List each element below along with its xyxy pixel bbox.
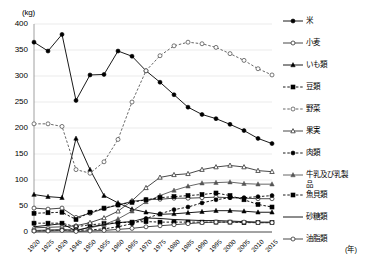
series-point-5-13 bbox=[214, 165, 218, 169]
series-point-4-1 bbox=[46, 122, 50, 126]
series-point-5-3 bbox=[74, 223, 78, 227]
legend-item-0[interactable]: 米 bbox=[282, 16, 313, 26]
series-point-8-6 bbox=[116, 203, 120, 207]
series-point-0-15 bbox=[242, 129, 246, 133]
legend-item-8[interactable]: 魚貝類 bbox=[282, 190, 327, 200]
series-point-8-0 bbox=[32, 211, 36, 215]
series-point-0-1 bbox=[46, 49, 50, 53]
series-point-6-10 bbox=[172, 208, 176, 212]
legend-label: 魚貝類 bbox=[306, 190, 327, 199]
legend-label: 小麦 bbox=[306, 38, 320, 47]
series-point-4-0 bbox=[32, 122, 36, 126]
series-line-4 bbox=[34, 42, 272, 173]
series-point-10-15 bbox=[242, 220, 246, 224]
series-point-0-6 bbox=[116, 49, 120, 53]
series-point-0-11 bbox=[186, 105, 190, 109]
series-point-0-17 bbox=[270, 142, 274, 146]
series-point-4-11 bbox=[186, 40, 190, 44]
series-point-0-9 bbox=[158, 80, 162, 84]
legend-item-5[interactable]: 果実 bbox=[282, 126, 320, 136]
series-point-4-8 bbox=[144, 69, 148, 73]
series-point-4-16 bbox=[256, 67, 260, 71]
legend-item-2[interactable]: いも類 bbox=[282, 60, 327, 70]
series-point-0-5 bbox=[102, 72, 106, 76]
legend-label: 牛乳及び乳製 bbox=[306, 170, 348, 179]
legend-item-6[interactable]: 肉類 bbox=[282, 148, 320, 158]
series-point-6-16 bbox=[256, 195, 260, 199]
series-point-10-5 bbox=[102, 228, 106, 232]
series-point-10-1 bbox=[46, 229, 50, 233]
series-point-10-8 bbox=[144, 225, 148, 229]
series-point-0-0 bbox=[32, 40, 36, 44]
series-point-5-10 bbox=[172, 172, 176, 176]
series-point-4-14 bbox=[228, 52, 232, 56]
series-point-8-13 bbox=[214, 191, 218, 195]
series-point-6-9 bbox=[158, 212, 162, 216]
series-line-9 bbox=[34, 218, 272, 231]
series-point-5-17 bbox=[270, 169, 274, 173]
series-line-0 bbox=[34, 34, 272, 143]
legend-label: 野菜 bbox=[306, 104, 320, 113]
series-point-4-7 bbox=[130, 100, 134, 104]
series-point-5-12 bbox=[200, 167, 204, 171]
series-point-1-2 bbox=[60, 206, 64, 210]
series-point-5-16 bbox=[256, 168, 260, 172]
series-point-0-4 bbox=[88, 73, 92, 77]
series-point-7-6 bbox=[116, 217, 120, 221]
legend-marker-icon bbox=[282, 38, 304, 48]
legend-item-10[interactable]: 油脂類 bbox=[282, 234, 327, 244]
series-point-4-5 bbox=[102, 160, 106, 164]
series-point-6-7 bbox=[130, 222, 134, 226]
series-point-2-3 bbox=[74, 136, 78, 140]
legend-marker-icon bbox=[282, 60, 304, 70]
legend-label: 砂糖類 bbox=[306, 212, 327, 221]
series-point-10-14 bbox=[228, 220, 232, 224]
series-point-10-16 bbox=[256, 221, 260, 225]
series-point-4-6 bbox=[116, 137, 120, 141]
series-point-4-2 bbox=[60, 124, 64, 128]
series-point-3-0 bbox=[32, 221, 36, 225]
series-point-8-7 bbox=[130, 200, 134, 204]
series-point-5-14 bbox=[228, 163, 232, 167]
series-point-8-9 bbox=[158, 196, 162, 200]
series-point-5-15 bbox=[242, 165, 246, 169]
series-point-4-3 bbox=[74, 168, 78, 172]
series-point-5-4 bbox=[88, 220, 92, 224]
series-point-10-3 bbox=[74, 229, 78, 233]
series-point-6-11 bbox=[186, 205, 190, 209]
series-point-10-6 bbox=[116, 227, 120, 231]
series-point-8-16 bbox=[256, 202, 260, 206]
series-point-8-11 bbox=[186, 194, 190, 198]
legend-marker-icon bbox=[282, 190, 304, 200]
series-point-4-4 bbox=[88, 171, 92, 175]
series-point-5-8 bbox=[144, 185, 148, 189]
legend-label: いも類 bbox=[306, 60, 327, 69]
legend-item-1[interactable]: 小麦 bbox=[282, 38, 320, 48]
legend-item-3[interactable]: 豆類 bbox=[282, 82, 320, 92]
series-point-5-5 bbox=[102, 216, 106, 220]
legend-item-9[interactable]: 砂糖類 bbox=[282, 212, 327, 222]
series-point-0-7 bbox=[130, 54, 134, 58]
series-point-0-10 bbox=[172, 93, 176, 97]
series-point-5-11 bbox=[186, 171, 190, 175]
series-point-6-12 bbox=[200, 201, 204, 205]
series-point-0-14 bbox=[228, 122, 232, 126]
legend-item-4[interactable]: 野菜 bbox=[282, 104, 320, 114]
legend-item-7[interactable]: 牛乳及び乳製 bbox=[282, 170, 348, 180]
series-point-6-17 bbox=[270, 194, 274, 198]
series-point-5-9 bbox=[158, 175, 162, 179]
series-point-8-2 bbox=[60, 210, 64, 214]
series-point-4-15 bbox=[242, 58, 246, 62]
legend-marker-icon bbox=[282, 212, 304, 222]
series-point-1-0 bbox=[32, 206, 36, 210]
series-point-0-13 bbox=[214, 117, 218, 121]
series-point-10-2 bbox=[60, 228, 64, 232]
series-point-8-5 bbox=[102, 206, 106, 210]
legend-label: 米 bbox=[306, 16, 313, 25]
series-point-8-4 bbox=[88, 210, 92, 214]
series-line-1 bbox=[34, 197, 272, 217]
legend-marker-icon bbox=[282, 234, 304, 244]
series-point-0-16 bbox=[256, 136, 260, 140]
legend-marker-icon bbox=[282, 104, 304, 114]
series-point-10-13 bbox=[214, 220, 218, 224]
